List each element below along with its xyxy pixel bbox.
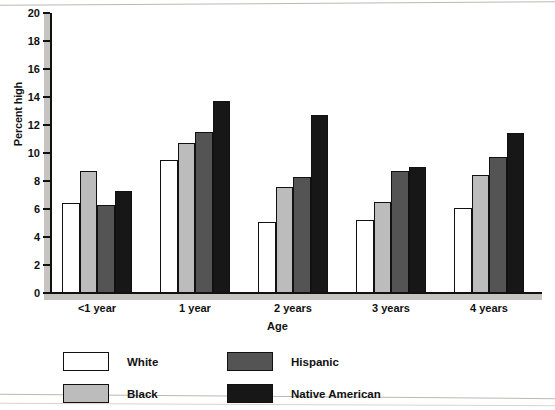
bar-native-american <box>311 115 329 293</box>
bar-native-american <box>507 133 525 293</box>
bar-chart: Percent high 02468101214161820 <1 year1 … <box>0 0 555 410</box>
x-axis-tick-label: <1 year <box>78 302 116 314</box>
y-axis-tick-label: 14 <box>16 91 40 103</box>
legend-item: Native American <box>227 384 381 403</box>
legend-swatch-hispanic <box>227 352 273 371</box>
y-axis-tick <box>43 40 50 42</box>
bar-black <box>178 143 196 293</box>
bar-hispanic <box>293 177 311 293</box>
legend-swatch-black <box>63 384 109 403</box>
y-axis-tick <box>43 152 50 154</box>
y-axis-tick <box>43 264 50 266</box>
legend-item: Hispanic <box>227 352 339 371</box>
y-axis-tick-label: 6 <box>16 203 40 215</box>
y-axis-tick-label: 4 <box>16 231 40 243</box>
x-axis-tick-label: 3 years <box>372 302 410 314</box>
bar-black <box>472 175 490 293</box>
y-axis-tick-label: 8 <box>16 175 40 187</box>
bar-white <box>258 222 276 293</box>
legend-item: White <box>63 352 158 371</box>
bar-black <box>80 171 98 293</box>
legend-label: Black <box>127 388 158 400</box>
bar-group <box>248 13 346 293</box>
bar-hispanic <box>391 171 409 293</box>
y-axis-tick <box>43 236 50 238</box>
y-axis-tick <box>43 96 50 98</box>
y-axis-tick-label: 18 <box>16 35 40 47</box>
bar-hispanic <box>97 205 115 293</box>
bar-native-american <box>213 101 231 293</box>
y-axis-tick <box>43 208 50 210</box>
y-axis-tick <box>43 68 50 70</box>
y-axis-tick-label: 2 <box>16 259 40 271</box>
bar-hispanic <box>489 157 507 293</box>
legend-swatch-white <box>63 352 109 371</box>
y-axis-tick-label: 0 <box>16 287 40 299</box>
bar-black <box>276 187 294 293</box>
bar-white <box>160 160 178 293</box>
bar-white <box>454 208 472 293</box>
x-axis-shadow <box>50 294 542 300</box>
y-axis-tick <box>43 12 50 14</box>
y-axis-tick <box>43 292 50 294</box>
bar-hispanic <box>195 132 213 293</box>
bar-group <box>150 13 248 293</box>
x-axis-tick-label: 1 year <box>179 302 211 314</box>
y-axis-tick-label: 12 <box>16 119 40 131</box>
legend-label: Hispanic <box>291 356 339 368</box>
x-axis-tick-label: 4 years <box>470 302 508 314</box>
bar-group <box>444 13 542 293</box>
y-axis-tick-label: 10 <box>16 147 40 159</box>
bar-group <box>346 13 444 293</box>
plot-area <box>52 13 542 293</box>
legend-label: Native American <box>291 388 381 400</box>
y-axis-tick-label: 20 <box>16 7 40 19</box>
bar-white <box>62 203 80 293</box>
bar-black <box>374 202 392 293</box>
bar-native-american <box>409 167 427 293</box>
bar-white <box>356 220 374 293</box>
x-axis-title: Age <box>0 320 555 332</box>
y-axis-tick <box>43 124 50 126</box>
legend-label: White <box>127 356 158 368</box>
legend-item: Black <box>63 384 158 403</box>
bar-group <box>52 13 150 293</box>
legend-swatch-native-american <box>227 384 273 403</box>
y-axis-tick <box>43 180 50 182</box>
x-axis-tick-label: 2 years <box>274 302 312 314</box>
bar-native-american <box>115 191 133 293</box>
y-axis-tick-label: 16 <box>16 63 40 75</box>
